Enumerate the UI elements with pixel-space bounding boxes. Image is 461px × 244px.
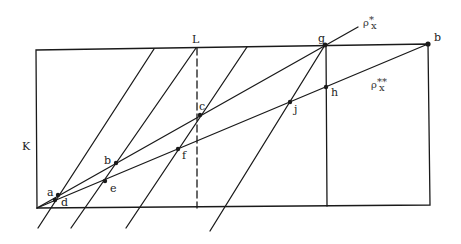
line-label-l: L [192, 34, 199, 45]
point-a [56, 193, 60, 197]
point-c [198, 113, 202, 117]
point-f [176, 147, 180, 151]
point-label-b-left: b [104, 155, 111, 166]
diagonal-line-2 [71, 48, 196, 228]
point-label-h: h [331, 87, 338, 98]
ray-label-rho-star: ρ*x [363, 14, 374, 28]
diagonal-line-4 [210, 45, 325, 231]
point-b-left [114, 161, 118, 165]
diagram-canvas [0, 0, 461, 244]
divider-line-g [326, 45, 327, 206]
point-label-a: a [47, 187, 54, 198]
point-j [288, 100, 292, 104]
ray-label-rho-double-star: ρ**x [371, 76, 387, 90]
region-label-k: K [22, 141, 30, 152]
point-label-g: g [318, 33, 325, 44]
point-label-j: j [294, 104, 297, 115]
point-e [103, 179, 107, 183]
point-h [324, 85, 328, 89]
point-label-d: d [61, 197, 68, 208]
point-label-b-corner: b [434, 32, 441, 43]
point-label-f: f [182, 150, 186, 161]
point-label-e: e [110, 183, 117, 194]
point-b-corner [425, 41, 430, 46]
point-label-c: c [199, 101, 205, 112]
